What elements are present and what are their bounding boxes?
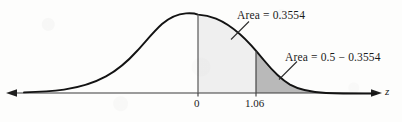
normal-distribution-figure: Area = 0.3554 Area = 0.5 − 0.3554 0 1.06…	[0, 0, 402, 122]
tick-label-z106: 1.06	[245, 97, 264, 109]
axis-arrow-left	[6, 89, 17, 97]
area-label-light: Area = 0.3554	[237, 9, 305, 21]
area-label-dark: Area = 0.5 − 0.3554	[285, 51, 381, 63]
axis-label-z: z	[385, 85, 389, 97]
leader-line-area-dark	[279, 62, 297, 80]
tick-label-z0: 0	[194, 97, 200, 109]
shaded-area-light	[198, 15, 256, 93]
